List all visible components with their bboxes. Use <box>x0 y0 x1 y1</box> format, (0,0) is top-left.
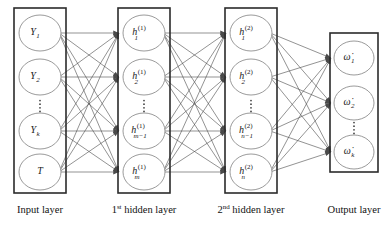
connection-edge <box>270 33 331 58</box>
ellipsis-dot <box>250 107 252 109</box>
node-hidden1-1 <box>123 15 165 51</box>
ellipsis-dot <box>39 111 41 113</box>
connection-edge <box>270 103 331 131</box>
ellipsis-dot <box>250 111 252 113</box>
ellipsis-dot <box>39 107 41 109</box>
layer-caption-output: Output layer <box>328 204 381 215</box>
layer-caption-hidden2: 2nd hidden layer <box>217 203 285 215</box>
ellipsis-dot <box>353 133 355 135</box>
node-hidden2-1 <box>230 15 272 51</box>
node-hidden2-4 <box>230 154 272 190</box>
ellipsis-dot <box>353 122 355 124</box>
ellipsis-dot <box>250 103 252 105</box>
connection-edge <box>270 58 331 77</box>
node-hidden1-2 <box>123 59 165 95</box>
node-label-hidden2-3: h(2)n−1 <box>239 122 253 140</box>
connection-edge <box>270 58 331 131</box>
node-label-hidden1-3: h(1)m−1 <box>131 122 147 140</box>
ellipsis-dot <box>39 100 41 102</box>
connection-edge <box>270 103 331 172</box>
ellipsis-dot <box>250 100 252 102</box>
layer-caption-hidden1: 1st hidden layer <box>112 203 177 215</box>
network-svg: Y1Y2YkTh(1)1h(1)2h(1)m−1h(1)mh(2)1h(2)2h… <box>0 0 390 227</box>
ellipsis-dot <box>39 103 41 105</box>
ellipsis-dot <box>353 129 355 131</box>
node-input-1 <box>19 15 61 51</box>
ellipsis-dot <box>143 107 145 109</box>
ellipsis-dot <box>353 125 355 127</box>
connection-edge <box>270 77 331 103</box>
layer-caption-input: Input layer <box>17 204 63 215</box>
ellipsis-dot <box>143 103 145 105</box>
node-hidden2-2 <box>230 59 272 95</box>
node-hidden1-4 <box>123 154 165 190</box>
neural-network-diagram: Y1Y2YkTh(1)1h(1)2h(1)m−1h(1)mh(2)1h(2)2h… <box>0 0 390 227</box>
node-input-3 <box>19 113 61 149</box>
connection-edges <box>59 31 331 175</box>
vertical-ellipses <box>39 100 355 134</box>
ellipsis-dot <box>143 111 145 113</box>
node-input-2 <box>19 59 61 95</box>
ellipsis-dot <box>143 100 145 102</box>
layer-captions: Input layer1st hidden layer2nd hidden la… <box>17 203 381 215</box>
